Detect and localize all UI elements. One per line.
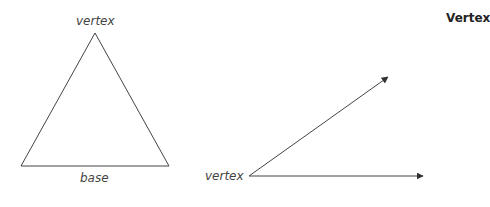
- diagram-title: Vertex: [446, 11, 490, 25]
- angle-ray-upper: [249, 77, 388, 176]
- triangle-vertex-label: vertex: [76, 14, 115, 28]
- triangle-shape: [21, 33, 169, 166]
- angle-vertex-label: vertex: [205, 169, 244, 183]
- triangle-base-label: base: [80, 171, 109, 185]
